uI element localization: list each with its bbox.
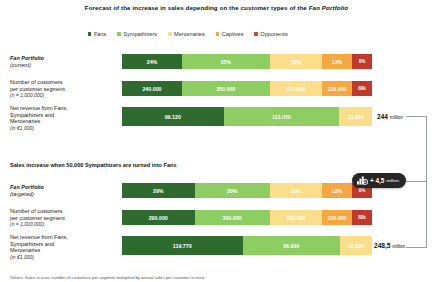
bar-segment-captives[interactable]: 120.000 — [322, 81, 352, 96]
callout-total-targeted: 248,5 million — [374, 242, 405, 249]
row-label-line1: Fan Portfolio — [10, 55, 44, 61]
bar-segment-sympathizers[interactable]: 35% — [182, 54, 270, 69]
bar-revenue-targeted: 119.770 96.900 31.920 — [122, 236, 372, 255]
legend-label-captives: Captives — [222, 31, 244, 37]
infographic-root: Forecast of the increase in sales depend… — [0, 0, 433, 282]
bar-segment-fans[interactable]: 99.120 — [122, 107, 224, 126]
bar-segment-sympathizers[interactable]: 300.000 — [195, 210, 270, 225]
row-label-line1: Fan Portfolio — [10, 184, 44, 190]
row-label-line3: Mercenaries — [10, 247, 40, 253]
bar-segment-captives[interactable]: 120.000 — [322, 210, 352, 225]
footnote: Values: Sales in euro; number of custome… — [10, 275, 430, 280]
bar-fan-portfolio-current: 24% 35% 21% 12% 8% — [122, 54, 372, 69]
legend-swatch-mercenaries — [168, 32, 171, 35]
callout-total-unit: million — [392, 244, 405, 249]
page-title: Forecast of the increase in sales depend… — [0, 4, 433, 11]
delta-badge-value: + 4,5 — [370, 177, 384, 184]
section-heading-sales-increase: Sales increase when 50,000 Sympathizers … — [10, 162, 177, 168]
legend-label-opponents: Opponents — [260, 31, 287, 37]
legend-swatch-sympathizers — [117, 32, 120, 35]
legend-item-opponents[interactable]: Opponents — [254, 31, 287, 37]
bracket-connector — [406, 116, 427, 248]
bar-segment-sympathizers[interactable]: 113.050 — [224, 107, 340, 126]
row-label-revenue-targeted: Net revenue from Fans, Sympathizers and … — [10, 234, 115, 260]
bar-segment-captives[interactable]: 12% — [322, 183, 352, 198]
row-label-line1: Number of customers — [10, 208, 63, 214]
delta-badge[interactable]: + 4,5 million — [352, 173, 406, 188]
bar-fan-portfolio-targeted: 29% 30% 21% 12% 8% — [122, 183, 372, 198]
legend-item-captives[interactable]: Captives — [216, 31, 244, 37]
row-label-note: (in €1,000) — [10, 254, 34, 260]
bar-segment-mercenaries[interactable]: 21% — [270, 54, 323, 69]
bar-segment-fans[interactable]: 29% — [122, 183, 195, 198]
bar-segment-opponents[interactable]: 80k — [352, 81, 372, 96]
legend-label-fans: Fans — [94, 31, 106, 37]
bar-segment-opponents[interactable]: 8% — [352, 54, 372, 69]
legend-swatch-opponents — [254, 32, 257, 35]
legend-label-mercenaries: Mercenaries — [174, 31, 205, 37]
callout-total-value: 244 — [377, 113, 388, 120]
legend-item-fans[interactable]: Fans — [88, 31, 106, 37]
bar-segment-sympathizers[interactable]: 30% — [195, 183, 270, 198]
bar-segment-mercenaries[interactable]: 31.920 — [339, 107, 372, 126]
bar-segment-opponents[interactable]: 80k — [352, 210, 372, 225]
row-label-line2: per customer segment — [10, 215, 65, 221]
row-label-line1: Number of customers — [10, 79, 63, 85]
row-label-fan-portfolio-current: Fan Portfolio (current) — [10, 55, 115, 68]
bar-segment-mercenaries[interactable]: 210.000 — [270, 81, 323, 96]
bar-segment-sympathizers[interactable]: 350.000 — [182, 81, 270, 96]
legend-item-mercenaries[interactable]: Mercenaries — [168, 31, 205, 37]
bar-segment-mercenaries[interactable]: 210.000 — [270, 210, 323, 225]
row-label-line2: (targeted) — [10, 191, 34, 197]
row-label-customers-current: Number of customers per customer segment… — [10, 79, 115, 99]
legend-label-sympathizers: Sympathizers — [123, 31, 157, 37]
bar-revenue-current: 99.120 113.050 31.920 — [122, 107, 372, 126]
bar-segment-fans[interactable]: 119.770 — [122, 236, 243, 255]
row-label-line1: Net revenue from Fans, — [10, 105, 68, 111]
row-label-line2: (current) — [10, 62, 31, 68]
bar-segment-captives[interactable]: 12% — [322, 54, 352, 69]
callout-total-current: 244 million — [377, 113, 403, 120]
row-label-line2: Sympathizers and — [10, 241, 54, 247]
bar-segment-fans[interactable]: 24% — [122, 54, 182, 69]
row-label-note: (n = 1,000,000) — [10, 221, 44, 227]
delta-badge-unit: million — [386, 178, 398, 183]
callout-total-unit: million — [390, 115, 403, 120]
chart-legend: Fans Sympathizers Mercenaries Captives O… — [88, 31, 288, 37]
row-label-line3: Mercenaries — [10, 118, 40, 124]
bar-customers-targeted: 290.000 300.000 210.000 120.000 80k — [122, 210, 372, 225]
row-label-revenue-current: Net revenue from Fans, Sympathizers and … — [10, 105, 115, 131]
bar-segment-mercenaries[interactable]: 31.920 — [340, 236, 372, 255]
legend-swatch-captives — [216, 32, 219, 35]
row-label-customers-targeted: Number of customers per customer segment… — [10, 208, 115, 228]
bar-segment-fans[interactable]: 240.000 — [122, 81, 182, 96]
bar-segment-fans[interactable]: 290.000 — [122, 210, 195, 225]
page-title-text: Forecast of the increase in sales depend… — [85, 4, 309, 11]
row-label-fan-portfolio-targeted: Fan Portfolio (targeted) — [10, 184, 115, 197]
legend-item-sympathizers[interactable]: Sympathizers — [117, 31, 157, 37]
row-label-line2: Sympathizers and — [10, 112, 54, 118]
bar-customers-current: 240.000 350.000 210.000 120.000 80k — [122, 81, 372, 96]
row-label-note: (n = 1,000,000) — [10, 92, 44, 98]
callout-total-value: 248,5 — [374, 242, 391, 249]
row-label-line2: per customer segment — [10, 86, 65, 92]
row-label-note: (in €1,000) — [10, 125, 34, 131]
row-label-line1: Net revenue from Fans, — [10, 234, 68, 240]
bar-segment-mercenaries[interactable]: 21% — [270, 183, 323, 198]
legend-swatch-fans — [88, 32, 91, 35]
bar-segment-sympathizers[interactable]: 96.900 — [243, 236, 341, 255]
page-title-emphasis: Fan Portfolio — [309, 4, 348, 11]
bar-chart-euro-icon — [357, 176, 368, 185]
